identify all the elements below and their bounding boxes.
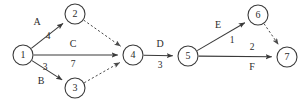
node-label-1: 1	[21, 49, 26, 60]
node-label-7: 7	[285, 51, 290, 62]
edge-label-lbl-A: A	[33, 16, 41, 27]
node-4[interactable]: 4	[123, 45, 143, 65]
network-graph-canvas: 1234567 A4C73BD3E12F	[0, 0, 306, 106]
node-label-3: 3	[73, 82, 78, 93]
edge-label-lbl-7: 7	[71, 59, 76, 69]
edge-label-lbl-3b: 3	[158, 60, 163, 70]
node-label-5: 5	[186, 50, 191, 61]
edges-layer	[31, 20, 278, 83]
edge-label-lbl-1: 1	[230, 35, 235, 45]
node-5[interactable]: 5	[178, 46, 198, 66]
node-label-4: 4	[131, 49, 136, 60]
edge-label-lbl-B: B	[38, 75, 45, 86]
node-7[interactable]: 7	[277, 47, 297, 67]
edge-label-lbl-2: 2	[250, 42, 255, 52]
edge-label-lbl-4: 4	[46, 31, 51, 41]
node-label-2: 2	[73, 8, 78, 19]
edge-label-lbl-F: F	[249, 61, 255, 72]
edge-label-lbl-D: D	[156, 38, 163, 49]
edge-label-lbl-C: C	[70, 38, 77, 49]
node-3[interactable]: 3	[65, 78, 85, 98]
edge-2-to-4-dummy	[84, 20, 121, 46]
edge-5-to-7	[199, 56, 272, 57]
node-1[interactable]: 1	[13, 45, 33, 65]
edge-label-lbl-E: E	[215, 19, 221, 30]
network-diagram: 1234567 A4C73BD3E12F	[0, 0, 306, 106]
edge-label-lbl-3a: 3	[43, 62, 48, 72]
edge-labels-layer: A4C73BD3E12F	[33, 16, 255, 86]
node-6[interactable]: 6	[248, 5, 268, 25]
node-2[interactable]: 2	[65, 4, 85, 24]
nodes-layer: 1234567	[13, 4, 297, 98]
node-label-6: 6	[256, 9, 261, 20]
edge-3-to-4-dummy	[84, 63, 120, 83]
edge-6-to-7-dummy	[264, 24, 278, 45]
edge-4-to-5	[144, 55, 173, 56]
